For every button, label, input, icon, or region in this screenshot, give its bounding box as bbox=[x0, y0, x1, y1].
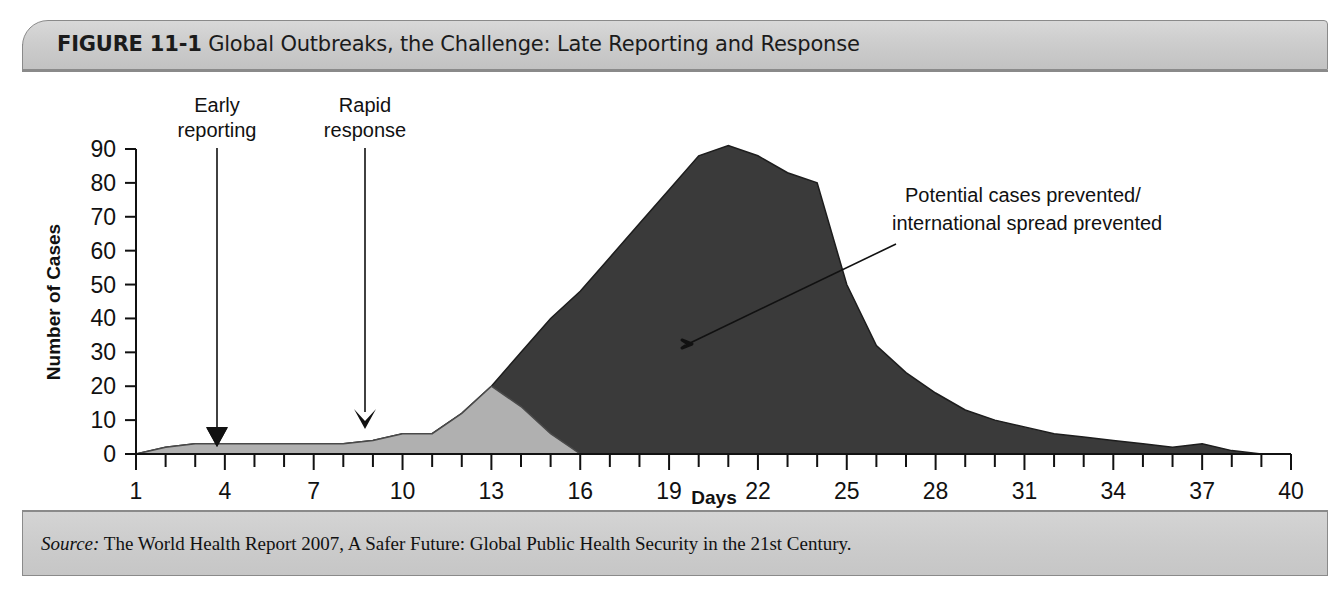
y-tick-label: 60 bbox=[90, 238, 116, 264]
chart-area: 0102030405060708090 14710131619222528313… bbox=[8, 72, 1330, 510]
source-citation: Source: The World Health Report 2007, A … bbox=[41, 533, 852, 555]
y-axis-ticks bbox=[125, 149, 136, 454]
x-tick-label: 31 bbox=[1012, 478, 1038, 504]
x-tick-label: 13 bbox=[479, 478, 505, 504]
x-tick-label: 40 bbox=[1278, 478, 1304, 504]
figure-title: FIGURE 11-1 Global Outbreaks, the Challe… bbox=[57, 32, 860, 56]
prevented-label-line1: Potential cases prevented/ bbox=[905, 184, 1141, 206]
source-body: The World Health Report 2007, A Safer Fu… bbox=[99, 533, 851, 554]
annotation-early-reporting: Early reporting bbox=[178, 94, 257, 447]
x-tick-label: 22 bbox=[745, 478, 771, 504]
y-tick-label: 30 bbox=[90, 339, 116, 365]
y-tick-label: 20 bbox=[90, 373, 116, 399]
y-tick-label: 50 bbox=[90, 272, 116, 298]
early-reporting-label-line2: reporting bbox=[178, 119, 257, 141]
y-tick-label: 10 bbox=[90, 407, 116, 433]
x-tick-label: 34 bbox=[1101, 478, 1127, 504]
y-axis-tick-labels: 0102030405060708090 bbox=[90, 136, 116, 467]
x-tick-label: 25 bbox=[834, 478, 860, 504]
y-tick-label: 80 bbox=[90, 170, 116, 196]
x-tick-label: 19 bbox=[656, 478, 682, 504]
prevented-label-line2: international spread prevented bbox=[892, 212, 1162, 234]
x-axis-ticks bbox=[136, 454, 1291, 470]
y-tick-label: 70 bbox=[90, 204, 116, 230]
figure-container: FIGURE 11-1 Global Outbreaks, the Challe… bbox=[8, 20, 1330, 576]
y-axis-title: Number of Cases bbox=[43, 224, 64, 380]
x-tick-label: 28 bbox=[923, 478, 949, 504]
x-axis-title: Days bbox=[691, 487, 736, 508]
x-tick-label: 4 bbox=[218, 478, 231, 504]
figure-number: FIGURE 11-1 bbox=[57, 32, 202, 56]
annotation-rapid-response: Rapid response bbox=[324, 94, 406, 429]
outbreak-area-chart: 0102030405060708090 14710131619222528313… bbox=[8, 72, 1330, 510]
x-tick-label: 37 bbox=[1189, 478, 1215, 504]
early-reporting-label-line1: Early bbox=[194, 94, 240, 116]
source-bar: Source: The World Health Report 2007, A … bbox=[22, 510, 1328, 576]
y-tick-label: 0 bbox=[103, 441, 116, 467]
figure-title-text: Global Outbreaks, the Challenge: Late Re… bbox=[208, 32, 860, 56]
rapid-response-label-line1: Rapid bbox=[339, 94, 391, 116]
x-tick-label: 1 bbox=[130, 478, 143, 504]
x-tick-label: 10 bbox=[390, 478, 416, 504]
y-tick-label: 40 bbox=[90, 305, 116, 331]
figure-header-bar: FIGURE 11-1 Global Outbreaks, the Challe… bbox=[22, 20, 1328, 70]
y-tick-label: 90 bbox=[90, 136, 116, 162]
x-tick-label: 7 bbox=[307, 478, 320, 504]
source-label: Source: bbox=[41, 533, 99, 554]
x-tick-label: 16 bbox=[567, 478, 593, 504]
rapid-response-label-line2: response bbox=[324, 119, 406, 141]
